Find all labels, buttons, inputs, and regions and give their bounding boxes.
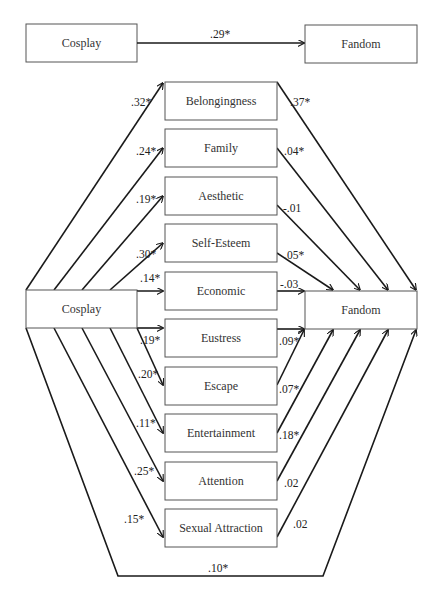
b-coef-aesthetic: -.01	[283, 202, 301, 214]
fandom-node-total: Fandom	[305, 25, 417, 63]
cosplay-node-total: Cosplay	[26, 24, 137, 62]
mediator-label: Economic	[197, 284, 246, 298]
mediator-node-self-esteem: Self-Esteem	[165, 224, 277, 262]
mediator-label: Sexual Attraction	[179, 521, 263, 535]
cosplay-node: Cosplay	[26, 290, 137, 328]
mediator-node-economic: Economic	[165, 272, 277, 310]
mediator-label: Entertainment	[187, 426, 256, 440]
mediator-node-sexual-attraction: Sexual Attraction	[165, 509, 277, 547]
a-coef-self-esteem: .30*	[136, 248, 156, 260]
b-coef-self-esteem: .05*	[284, 249, 304, 261]
a-path-sexual-attraction	[54, 328, 163, 537]
a-coef-belongingness: .32*	[131, 96, 151, 108]
b-coef-sexual-attraction: .02	[293, 518, 308, 530]
b-coef-economic: -.03	[280, 278, 298, 290]
mediator-node-belongingness: Belongingness	[165, 82, 277, 120]
mediator-label: Attention	[198, 474, 243, 488]
a-coef-escape: .20*	[138, 368, 158, 380]
mediator-node-escape: Escape	[165, 367, 277, 405]
fandom-node: Fandom	[305, 291, 417, 329]
total-effect-model: Cosplay Fandom .29*	[26, 24, 417, 63]
mediation-model: .10* Cosplay Fandom	[26, 82, 417, 576]
a-coef-eustress: .19*	[140, 334, 160, 346]
mediator-label: Family	[204, 141, 238, 155]
a-coef-attention: .25*	[134, 465, 154, 477]
a-coef-aesthetic: .19*	[136, 193, 156, 205]
mediator-label: Eustress	[201, 331, 241, 345]
direct-effect-coefficient: .10*	[208, 562, 228, 574]
mediator-label: Escape	[204, 379, 238, 393]
total-effect-coefficient: .29*	[210, 28, 230, 40]
a-path-family	[54, 148, 163, 290]
b-coef-entertainment: .18*	[279, 429, 299, 441]
a-coef-entertainment: .11*	[136, 417, 156, 429]
mediator-label: Belongingness	[186, 94, 257, 108]
b-coef-eustress: .09*	[279, 335, 299, 347]
mediator-node-entertainment: Entertainment	[165, 414, 277, 452]
cosplay-label-total: Cosplay	[62, 36, 101, 50]
mediator-node-attention: Attention	[165, 462, 277, 500]
a-coef-family: .24*	[136, 145, 156, 157]
mediator-label: Aesthetic	[198, 189, 243, 203]
mediator-node-family: Family	[165, 129, 277, 167]
fandom-label: Fandom	[341, 303, 381, 317]
cosplay-label: Cosplay	[62, 302, 101, 316]
b-coef-attention: .02	[284, 477, 299, 489]
b-coef-family: .04*	[284, 145, 304, 157]
a-coef-economic: .14*	[140, 272, 160, 284]
b-coef-belongingness: .37*	[290, 96, 310, 108]
mediator-node-aesthetic: Aesthetic	[165, 177, 277, 215]
b-coef-escape: .07*	[279, 383, 299, 395]
b-path-family	[277, 148, 388, 290]
fandom-label-total: Fandom	[341, 37, 381, 51]
mediation-diagram: Cosplay Fandom .29* .10*	[0, 0, 439, 596]
a-path-economic	[137, 290, 163, 291]
mediator-label: Self-Esteem	[192, 236, 251, 250]
a-coef-sexual-attraction: .15*	[124, 513, 144, 525]
mediator-node-eustress: Eustress	[165, 319, 277, 357]
